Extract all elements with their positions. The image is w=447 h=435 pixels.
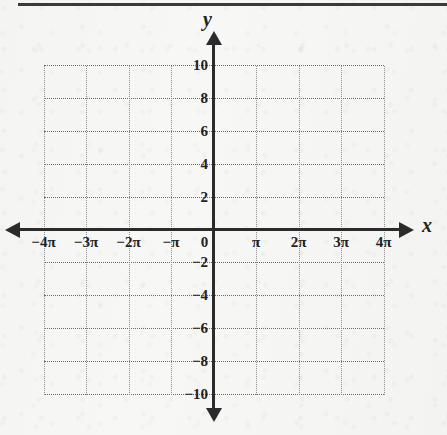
y-axis-line xyxy=(212,42,215,417)
y-tick-label: −2 xyxy=(160,254,208,271)
y-tick-label: −8 xyxy=(160,353,208,370)
y-tick-label: −6 xyxy=(160,320,208,337)
y-tick-label: 6 xyxy=(160,122,208,139)
x-tick-label: −2π xyxy=(116,234,140,251)
y-tick-label: 2 xyxy=(160,188,208,205)
x-tick-label: −4π xyxy=(31,234,55,251)
y-axis-up-arrow-icon xyxy=(206,31,222,45)
y-tick-label: 10 xyxy=(160,57,208,74)
x-tick-label: π xyxy=(252,234,260,251)
coordinate-plane: y x −4π−3π−2π−π0π2π3π4π 108642−2−4−6−8−1… xyxy=(0,0,447,435)
origin-label: 0 xyxy=(201,234,209,251)
y-tick-label: 8 xyxy=(160,89,208,106)
graph-page: y x −4π−3π−2π−π0π2π3π4π 108642−2−4−6−8−1… xyxy=(0,0,447,435)
x-axis-left-arrow-icon xyxy=(5,222,20,238)
y-axis-label: y xyxy=(203,8,212,31)
x-tick-label: 3π xyxy=(333,234,349,251)
y-tick-label: 4 xyxy=(160,155,208,172)
x-tick-label: 2π xyxy=(291,234,307,251)
x-tick-label: 4π xyxy=(376,234,392,251)
x-tick-label: −π xyxy=(163,234,180,251)
y-tick-label: −4 xyxy=(160,287,208,304)
x-axis-right-arrow-icon xyxy=(399,222,414,238)
y-axis-down-arrow-icon xyxy=(206,408,222,422)
y-tick-label: −10 xyxy=(160,386,208,403)
x-tick-label: −3π xyxy=(74,234,98,251)
x-axis-label: x xyxy=(422,214,432,237)
